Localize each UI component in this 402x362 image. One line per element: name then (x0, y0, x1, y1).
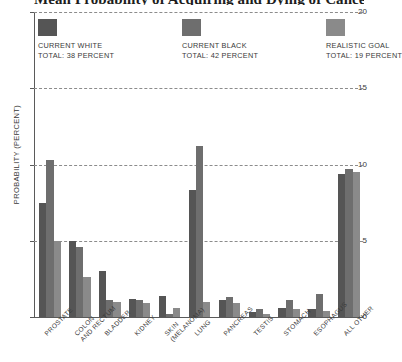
bar (286, 300, 293, 317)
legend-series-name: REALISTIC GOAL (326, 41, 402, 51)
legend-item[interactable]: CURRENT BLACKTOTAL: 42 PERCENT (182, 19, 258, 60)
bar (159, 296, 166, 317)
legend-series-name: CURRENT BLACK (182, 41, 258, 51)
legend-swatch-icon (38, 19, 57, 36)
bar (166, 314, 173, 317)
bar (219, 300, 226, 317)
y-tick-mark-0 (30, 317, 35, 318)
bar (256, 309, 263, 317)
legend-series-name: CURRENT WHITE (38, 41, 114, 51)
bar (189, 190, 196, 317)
bar (278, 308, 285, 317)
bar (76, 247, 83, 317)
chart-legend: CURRENT WHITETOTAL: 38 PERCENTCURRENT BL… (38, 19, 358, 59)
legend-series-total: TOTAL: 38 PERCENT (38, 51, 114, 61)
legend-series-total: TOTAL: 42 PERCENT (182, 51, 258, 61)
bar (54, 241, 61, 317)
legend-label: CURRENT WHITETOTAL: 38 PERCENT (38, 41, 114, 60)
bar (226, 297, 233, 317)
bar (345, 169, 352, 317)
bar (353, 172, 360, 317)
bar (136, 300, 143, 317)
bar (316, 294, 323, 317)
legend-label: REALISTIC GOALTOTAL: 19 PERCENT (326, 41, 402, 60)
bar (39, 203, 46, 317)
legend-item[interactable]: CURRENT WHITETOTAL: 38 PERCENT (38, 19, 114, 60)
legend-label: CURRENT BLACKTOTAL: 42 PERCENT (182, 41, 258, 60)
legend-swatch-icon (182, 19, 201, 36)
bar (338, 174, 345, 317)
bar (46, 160, 53, 317)
gridline-20 (34, 12, 363, 13)
bar (83, 277, 90, 317)
bar (196, 146, 203, 317)
legend-swatch-icon (326, 19, 345, 36)
gridline-15 (34, 88, 363, 89)
chart-title: Mean Probability of Acquiring and Dying … (34, 0, 364, 5)
bar (69, 241, 76, 317)
y-axis-title: PROBABILITY (PERCENT) (12, 85, 21, 225)
legend-item[interactable]: REALISTIC GOALTOTAL: 19 PERCENT (326, 19, 402, 60)
legend-series-total: TOTAL: 19 PERCENT (326, 51, 402, 61)
